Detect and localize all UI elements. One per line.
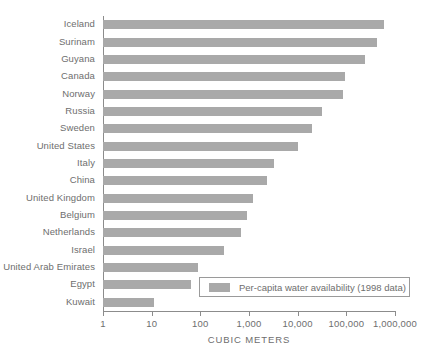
x-tick-mark: [346, 311, 347, 316]
chart-legend: Per-capita water availability (1998 data…: [199, 277, 410, 297]
x-tick-label: 10,000: [283, 318, 313, 329]
bar-row: [103, 194, 253, 203]
x-tick-mark: [298, 311, 299, 316]
x-tick-label: 10: [146, 318, 157, 329]
x-tick-mark: [200, 311, 201, 316]
bar: [103, 228, 241, 237]
bar: [103, 107, 322, 116]
category-axis-labels: IcelandSurinamGuyanaCanadaNorwayRussiaSw…: [0, 16, 99, 311]
category-label: Egypt: [70, 279, 95, 289]
bar-row: [103, 107, 322, 116]
bar-row: [103, 124, 312, 133]
category-label: Israel: [71, 245, 95, 255]
x-tick-mark: [152, 311, 153, 316]
bar: [103, 20, 384, 29]
x-axis-title: CUBIC METERS: [103, 334, 395, 345]
legend-swatch-water-availability: [209, 283, 230, 292]
category-label: China: [70, 175, 95, 185]
bar-row: [103, 20, 384, 29]
category-label: Sweden: [60, 123, 95, 133]
bar: [103, 159, 274, 168]
bar-row: [103, 159, 274, 168]
bar: [103, 55, 365, 64]
bar-row: [103, 142, 298, 151]
category-label: Norway: [62, 89, 95, 99]
x-tick-label: 1,000,000: [373, 318, 417, 329]
x-tick-mark: [103, 311, 104, 316]
category-label: Canada: [61, 71, 95, 81]
x-tick-mark: [395, 311, 396, 316]
bar-row: [103, 211, 247, 220]
category-label: Belgium: [60, 210, 95, 220]
legend-label-water-availability: Per-capita water availability (1998 data…: [239, 282, 406, 293]
bar-row: [103, 38, 377, 47]
x-tick-label: 100,000: [328, 318, 364, 329]
bar: [103, 142, 298, 151]
bar: [103, 246, 224, 255]
x-tick-label: 100: [192, 318, 208, 329]
bar: [103, 280, 191, 289]
category-label: Russia: [65, 106, 95, 116]
category-label: Netherlands: [43, 227, 95, 237]
bar: [103, 124, 312, 133]
category-label: United Kingdom: [26, 193, 95, 203]
category-label: United States: [37, 141, 95, 151]
bar-row: [103, 298, 154, 307]
bar: [103, 298, 154, 307]
bar-row: [103, 280, 191, 289]
x-tick-mark: [249, 311, 250, 316]
bar: [103, 211, 247, 220]
bar-row: [103, 263, 198, 272]
bar: [103, 90, 343, 99]
bar-row: [103, 228, 241, 237]
category-label: Kuwait: [66, 297, 95, 307]
x-tick-label: 1,000: [237, 318, 262, 329]
bar-row: [103, 55, 365, 64]
category-label: Surinam: [59, 37, 95, 47]
bar: [103, 38, 377, 47]
category-label: Guyana: [61, 54, 95, 64]
water-availability-bar-chart: IcelandSurinamGuyanaCanadaNorwayRussiaSw…: [0, 0, 434, 359]
bar: [103, 263, 198, 272]
bar: [103, 176, 267, 185]
bar: [103, 72, 345, 81]
category-label: Iceland: [64, 19, 95, 29]
bar-row: [103, 176, 267, 185]
x-tick-label: 1: [100, 318, 105, 329]
bar-row: [103, 90, 343, 99]
category-label: United Arab Emirates: [3, 262, 95, 272]
bar: [103, 194, 253, 203]
category-label: Italy: [77, 158, 95, 168]
bar-row: [103, 246, 224, 255]
bars-container: [103, 16, 415, 311]
bar-row: [103, 72, 345, 81]
